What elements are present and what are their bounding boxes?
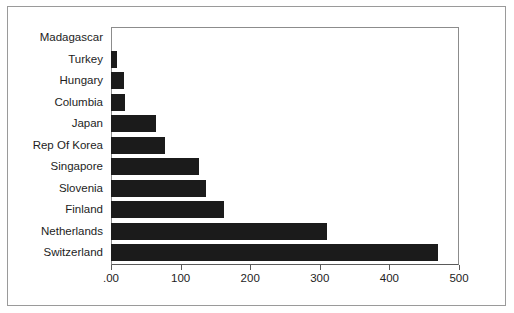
x-axis-tick-label: 100 <box>159 272 203 284</box>
bar <box>111 72 124 89</box>
x-axis-tick-mark <box>459 265 460 270</box>
chart-figure: MadagascarTurkeyHungaryColumbiaJapanRep … <box>0 0 514 313</box>
y-axis-tick-label: Switzerland <box>0 242 107 264</box>
bar-row <box>111 49 459 71</box>
y-axis-tick-label: Singapore <box>0 156 107 178</box>
bar <box>111 115 156 132</box>
x-axis-tick-label: .00 <box>89 272 133 284</box>
x-axis-tick-mark <box>111 265 112 270</box>
y-axis-tick-label: Turkey <box>0 49 107 71</box>
y-axis-tick-label: Hungary <box>0 70 107 92</box>
y-axis-tick-label: Madagascar <box>0 27 107 49</box>
x-axis-tick-label: 300 <box>298 272 342 284</box>
bar <box>111 244 438 261</box>
bar-row <box>111 70 459 92</box>
y-axis-tick-label: Columbia <box>0 92 107 114</box>
bars-container <box>111 27 459 264</box>
bar-row <box>111 27 459 49</box>
y-axis-tick-label: Finland <box>0 199 107 221</box>
bar-row <box>111 135 459 157</box>
bar-row <box>111 113 459 135</box>
x-axis-tick-label: 500 <box>437 272 481 284</box>
bar-row <box>111 92 459 114</box>
bar <box>111 94 125 111</box>
y-axis-tick-label: Netherlands <box>0 221 107 243</box>
bar <box>111 137 165 154</box>
y-axis-tick-label: Rep Of Korea <box>0 135 107 157</box>
y-axis-tick-label: Slovenia <box>0 178 107 200</box>
bar-row <box>111 199 459 221</box>
x-axis-tick-mark <box>250 265 251 270</box>
bar <box>111 158 199 175</box>
bar <box>111 180 206 197</box>
bar-row <box>111 242 459 264</box>
x-axis-tick-mark <box>389 265 390 270</box>
bar-row <box>111 178 459 200</box>
bar <box>111 51 117 68</box>
x-axis-tick-mark <box>181 265 182 270</box>
y-axis-tick-label: Japan <box>0 113 107 135</box>
y-axis-category-labels: MadagascarTurkeyHungaryColumbiaJapanRep … <box>0 27 107 264</box>
x-axis-tick-label: 200 <box>228 272 272 284</box>
bar-row <box>111 156 459 178</box>
bar <box>111 201 224 218</box>
x-axis-tick-label: 400 <box>367 272 411 284</box>
bar <box>111 223 327 240</box>
bar-row <box>111 221 459 243</box>
x-axis-tick-mark <box>320 265 321 270</box>
